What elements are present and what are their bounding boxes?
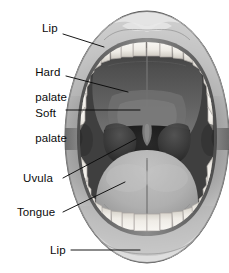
leader-line-hard-palate: [66, 76, 128, 92]
leader-line-lip-upper: [63, 34, 104, 47]
label-uvula: Uvula: [23, 172, 53, 185]
label-lip-lower: Lip: [50, 244, 66, 257]
label-lip-upper: Lip: [42, 22, 58, 35]
label-hard-palate-line1: Hard: [35, 66, 60, 78]
label-soft-palate: Soft palate: [22, 94, 67, 158]
label-soft-palate-line1: Soft: [35, 107, 56, 119]
label-tongue: Tongue: [17, 206, 55, 219]
mouth-anatomy-figure: Lip Hard palate Soft palate Uvula Tongue…: [0, 0, 229, 273]
label-soft-palate-line2: palate: [35, 132, 67, 144]
leader-line-tongue: [63, 182, 125, 212]
leader-line-uvula: [63, 139, 136, 178]
